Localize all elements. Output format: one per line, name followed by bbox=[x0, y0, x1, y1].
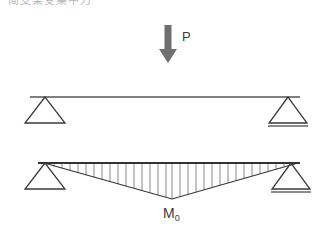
moment-diagram-group: M0 bbox=[25, 163, 311, 223]
left-pin-support-triangle bbox=[25, 97, 65, 123]
point-load-arrow-group bbox=[159, 25, 177, 63]
moment-right-roller-support-triangle bbox=[272, 163, 310, 189]
load-label-p: P bbox=[182, 29, 191, 44]
beam-diagram-group: P bbox=[25, 25, 308, 126]
right-roller-support-triangle bbox=[269, 97, 307, 123]
moment-hatch-lines bbox=[46, 163, 292, 199]
moment-label: M0 bbox=[163, 205, 180, 223]
moment-label-text: M bbox=[163, 205, 175, 221]
load-arrow-head bbox=[159, 49, 177, 63]
figure-canvas: 简支梁受集中力 P bbox=[0, 0, 333, 234]
load-arrow-shaft bbox=[165, 25, 172, 51]
moment-label-subscript: 0 bbox=[175, 213, 180, 223]
engineering-diagram-svg: P bbox=[0, 0, 333, 234]
